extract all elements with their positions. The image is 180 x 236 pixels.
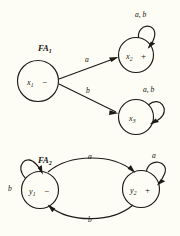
state-y2-circle[interactable] (123, 171, 160, 208)
edge-label-y2-y1: b (88, 215, 92, 224)
loop-label-x2: a, b (135, 10, 147, 19)
arrowhead-x3-loop (150, 119, 159, 125)
state-y2-label: y2 (129, 186, 137, 196)
automaton-fa2: y1 − y2 + (8, 151, 165, 224)
state-x2-label: x2 (125, 52, 133, 62)
automaton-title-fa1: FA1 (37, 43, 52, 54)
loop-label-y1: b (8, 184, 12, 193)
state-x3-label: x3 (128, 114, 136, 124)
state-x1-sign: − (42, 77, 47, 87)
state-x2[interactable]: x2 + (119, 38, 154, 73)
loop-label-x3: a, b (143, 85, 155, 94)
edge-label-x1-x2: a (85, 55, 89, 64)
state-x1[interactable]: x1 − (18, 61, 59, 102)
self-loop-y2 (147, 162, 166, 185)
figure-canvas: x1 − x2 + x3 (0, 0, 180, 236)
edge-label-x1-x3: b (86, 86, 90, 95)
state-y1[interactable]: y1 − (22, 172, 59, 209)
state-y2[interactable]: y2 + (123, 171, 160, 208)
state-x3[interactable]: x3 (119, 100, 154, 135)
state-x3-circle[interactable] (119, 100, 154, 135)
state-y1-circle[interactable] (22, 172, 59, 209)
state-y2-sign: + (145, 185, 150, 195)
self-loop-x3 (149, 102, 165, 125)
state-x1-circle[interactable] (18, 61, 59, 102)
state-x2-circle[interactable] (119, 38, 154, 73)
arrowhead-x1-x2 (109, 57, 119, 62)
state-y1-label: y1 (28, 187, 36, 197)
state-x1-label: x1 (26, 78, 34, 88)
automaton-fa1: x1 − x2 + x3 (18, 10, 165, 135)
automaton-title-fa2: FA2 (37, 155, 52, 166)
state-x2-sign: + (141, 51, 146, 61)
edge-label-y1-y2: a (88, 152, 92, 161)
self-loop-x2 (138, 26, 155, 49)
state-y1-sign: − (44, 186, 49, 196)
loop-label-y2: a (152, 151, 156, 160)
